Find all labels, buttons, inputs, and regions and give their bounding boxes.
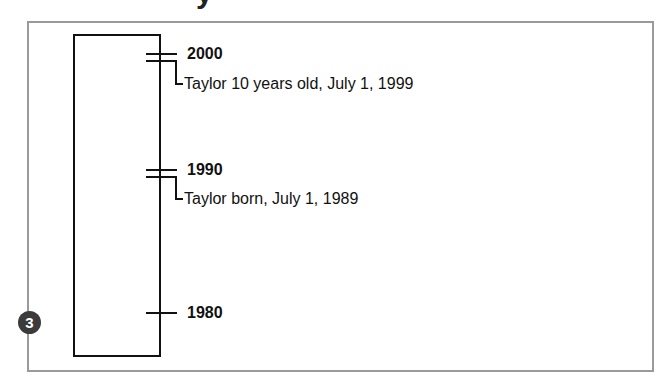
step-number-badge: 3 <box>18 311 41 334</box>
event-tick-1999 <box>146 60 177 62</box>
year-label-1990: 1990 <box>187 161 223 179</box>
year-label-2000: 2000 <box>187 45 223 63</box>
event-label-1989: Taylor born, July 1, 1989 <box>184 190 358 208</box>
event-connector-1989-horizontal <box>175 198 183 200</box>
event-tick-1989 <box>146 176 177 178</box>
event-connector-1999-vertical <box>175 60 177 85</box>
event-label-1999: Taylor 10 years old, July 1, 1999 <box>184 75 413 93</box>
tick-2000 <box>146 53 177 55</box>
year-label-1980: 1980 <box>187 304 223 322</box>
title-fragment: y <box>196 0 213 8</box>
event-connector-1999-horizontal <box>175 83 183 85</box>
tick-1990 <box>146 169 177 171</box>
event-connector-1989-vertical <box>175 176 177 200</box>
timeline-bar <box>73 34 161 357</box>
tick-1980 <box>146 312 177 314</box>
